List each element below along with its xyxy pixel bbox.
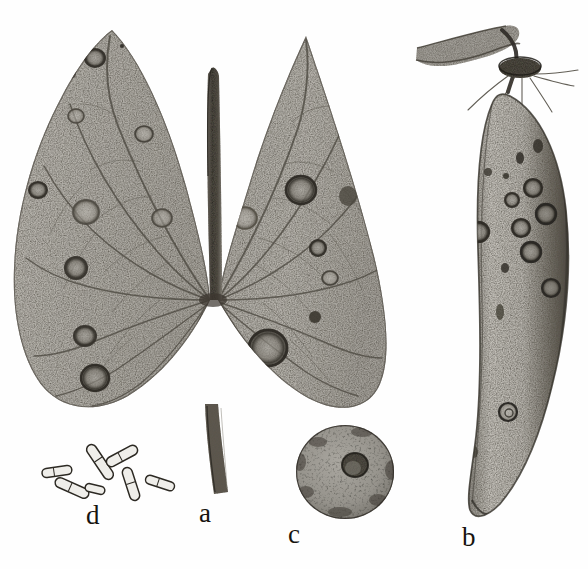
lesion [218, 103, 234, 117]
seed-hilum [342, 453, 368, 477]
lesion [67, 108, 85, 124]
figure-leaf [14, 30, 390, 494]
lesion [516, 152, 524, 164]
lesion [523, 178, 543, 198]
lesion [533, 139, 543, 153]
lesion [134, 125, 154, 143]
figure-label-a: a [199, 500, 211, 527]
conidium [41, 465, 72, 478]
lesion [248, 329, 288, 367]
lesion [503, 173, 509, 179]
lesion [120, 44, 124, 48]
lesion [73, 325, 97, 347]
lesion [321, 270, 339, 286]
lesion [504, 192, 520, 208]
lesion [501, 263, 509, 273]
lesion [511, 218, 531, 238]
lesion [496, 304, 504, 320]
lesion [535, 203, 557, 225]
lesion [339, 186, 357, 206]
lesion [179, 153, 185, 159]
lesion [80, 364, 110, 392]
lesion [72, 199, 100, 225]
lesion [84, 48, 106, 68]
leaf-left-lobe [14, 30, 210, 407]
lesion [466, 221, 490, 243]
pod-peduncle [416, 26, 520, 92]
lesion [232, 116, 254, 136]
lesion [232, 206, 258, 230]
leaf-petiole [205, 404, 228, 494]
figure-conidia [41, 443, 175, 502]
figure-label-b: b [462, 524, 476, 551]
figure-label-c: c [288, 521, 300, 548]
lesion [309, 239, 327, 257]
lesion [464, 324, 476, 356]
conidium [144, 474, 175, 492]
plate-canvas [0, 0, 588, 569]
conidium [121, 466, 141, 501]
lesion [520, 241, 542, 263]
figure-label-d: d [86, 502, 100, 529]
figure-seed [294, 425, 399, 519]
lesion [541, 278, 561, 298]
conidium [105, 444, 140, 469]
illustration-plate: a b c d [0, 0, 588, 569]
lesion [498, 402, 518, 422]
lesion [64, 69, 76, 79]
lesion [151, 208, 173, 228]
lesion [64, 256, 88, 280]
lesion [28, 181, 48, 199]
pod-body [469, 94, 580, 516]
lesion [484, 168, 492, 176]
lesion [285, 175, 317, 205]
lesion [309, 311, 321, 323]
figure-pod [416, 26, 580, 517]
